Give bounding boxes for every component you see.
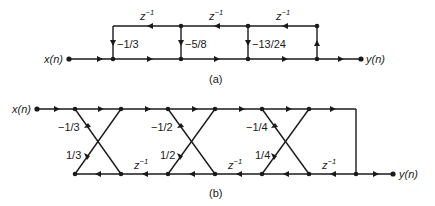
diagram-a: x(n) y(n) z−1 z−1 z−1 −1/3 −5/8 −13/24 (… [43, 8, 385, 85]
arrow-right-icon [192, 106, 198, 112]
a-output-label: y(n) [365, 53, 385, 65]
a-caption: (a) [209, 73, 222, 85]
b-stage1-upper-gain: −1/3 [58, 121, 80, 133]
b-input-label: x(n) [11, 103, 31, 115]
arrow-left-icon [142, 171, 148, 177]
arrow-left-icon [214, 23, 220, 29]
signal-flow-diagrams: x(n) y(n) z−1 z−1 z−1 −1/3 −5/8 −13/24 (… [0, 0, 435, 206]
arrow-left-icon [282, 23, 288, 29]
arrow-right-icon [373, 171, 379, 177]
arrow-right-icon [330, 106, 336, 112]
b-stage1-lower-gain: 1/3 [66, 149, 81, 161]
diagram-b: x(n) y(n) −1/3 1/3 −1/2 1/2 −1/4 1/4 z−1… [11, 103, 418, 199]
arrow-right-icon [54, 106, 60, 112]
arrow-left-icon [95, 171, 101, 177]
b-stage3-lower-gain: 1/4 [255, 149, 270, 161]
arrow-right-icon [286, 106, 292, 112]
arrow-right-icon [214, 56, 220, 62]
b-delay-label-2: z−1 [227, 157, 242, 171]
b-output-label: y(n) [398, 168, 418, 180]
arrow-right-icon [239, 106, 245, 112]
a-delay-label-2: z−1 [208, 8, 223, 22]
arrow-left-icon [283, 171, 289, 177]
arrow-down-icon [110, 40, 116, 46]
a-delay-label-1: z−1 [139, 8, 154, 22]
arrow-left-icon [189, 171, 195, 177]
b-stage2-upper-gain: −1/2 [151, 121, 173, 133]
a-gain-3: −13/24 [252, 38, 286, 50]
arrow-left-icon [330, 171, 336, 177]
b-delay-label-1: z−1 [133, 157, 148, 171]
arrow-right-icon [147, 56, 153, 62]
b-caption: (b) [209, 187, 222, 199]
output-node [390, 171, 395, 176]
arrow-up-icon [314, 40, 320, 46]
arrow-right-icon [145, 106, 151, 112]
input-node [66, 56, 71, 61]
arrow-left-icon [236, 171, 242, 177]
arrow-right-icon [98, 106, 104, 112]
input-node [34, 106, 39, 111]
a-input-label: x(n) [43, 53, 63, 65]
b-stage2-lower-gain: 1/2 [160, 149, 175, 161]
a-gain-2: −5/8 [185, 38, 207, 50]
arrow-right-icon [97, 56, 103, 62]
arrow-down-icon [178, 40, 184, 46]
b-stage3-upper-gain: −1/4 [246, 121, 268, 133]
output-node [358, 56, 363, 61]
arrow-left-icon [147, 23, 153, 29]
a-gain-1: −1/3 [117, 38, 139, 50]
arrow-right-icon [282, 56, 288, 62]
b-delay-label-3: z−1 [321, 157, 336, 171]
arrow-right-icon [338, 56, 344, 62]
arrow-down-icon [245, 40, 251, 46]
a-delay-label-3: z−1 [275, 8, 290, 22]
